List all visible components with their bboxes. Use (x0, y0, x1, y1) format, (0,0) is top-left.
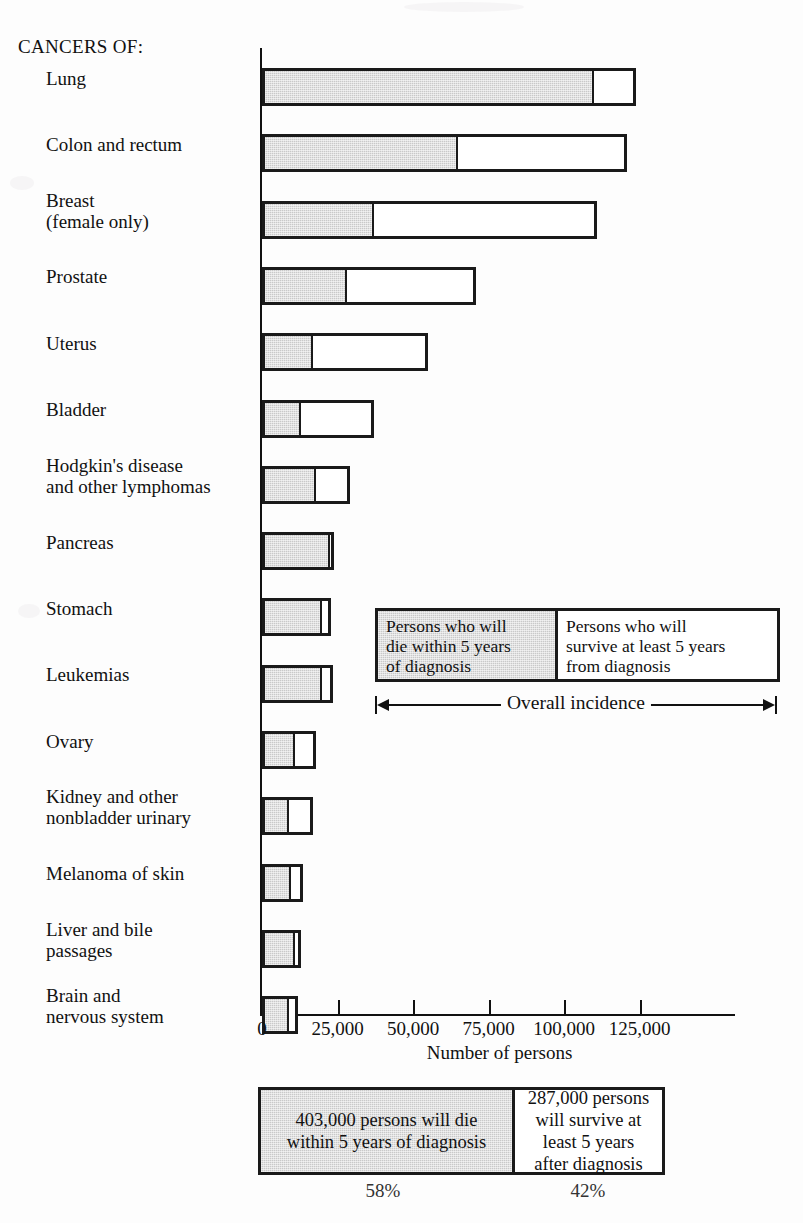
summary-die-percent: 58% (366, 1180, 401, 1202)
bar-row (262, 665, 333, 703)
x-axis-title: Number of persons (262, 1042, 737, 1064)
bar-segment-die (262, 201, 374, 239)
x-axis-line (260, 1014, 735, 1016)
bar-segment-die (262, 267, 347, 305)
category-label: Lung (46, 68, 86, 89)
x-axis-tick-label: 50,000 (387, 1018, 439, 1040)
category-label: Uterus (46, 333, 97, 354)
category-label: Bladder (46, 399, 106, 420)
x-axis-tick (489, 1000, 491, 1015)
legend: Persons who will die within 5 years of d… (375, 608, 780, 682)
category-label: Liver and bile passages (46, 919, 153, 961)
bar-row (262, 731, 316, 769)
bar-segment-die (262, 400, 301, 438)
summary-box: 403,000 persons will die within 5 years … (258, 1087, 665, 1175)
category-label: Hodgkin's disease and other lymphomas (46, 455, 211, 497)
bar-segment-die (262, 333, 313, 371)
incidence-right-cap (775, 696, 777, 714)
bar-row (262, 930, 301, 968)
x-axis-tick (413, 1000, 415, 1015)
bar-row (262, 267, 476, 305)
legend-item-die: Persons who will die within 5 years of d… (378, 611, 558, 679)
bar-segment-die (262, 466, 316, 504)
x-axis-tick (338, 1000, 340, 1015)
scan-artifact (10, 176, 34, 190)
bar-row (262, 996, 298, 1034)
bar-row (262, 333, 428, 371)
bar-segment-die (262, 598, 322, 636)
bar-segment-die (262, 731, 295, 769)
bar-segment-die (262, 665, 322, 703)
summary-die-cell: 403,000 persons will die within 5 years … (261, 1090, 515, 1172)
bar-segment-die (262, 134, 458, 172)
overall-incidence-annotation: Overall incidence (375, 694, 777, 716)
category-label: Kidney and other nonbladder urinary (46, 786, 191, 828)
bar-segment-die (262, 797, 289, 835)
x-axis-tick-label: 125,000 (609, 1018, 671, 1040)
category-label: Leukemias (46, 664, 129, 685)
x-axis-tick-label: 25,000 (311, 1018, 363, 1040)
x-axis-tick-label: 0 (257, 1018, 267, 1040)
group-label: CANCERS OF: (18, 36, 143, 58)
category-label: Colon and rectum (46, 134, 182, 155)
summary-survive-percent: 42% (571, 1180, 606, 1202)
bar-row (262, 532, 334, 570)
bar-row (262, 797, 313, 835)
arrow-right-icon (763, 699, 775, 711)
summary-survive-cell: 287,000 persons will survive at least 5 … (515, 1090, 662, 1172)
bar-segment-die (262, 68, 594, 106)
category-label: Prostate (46, 266, 107, 287)
bar-row (262, 68, 636, 106)
x-axis-tick (640, 1000, 642, 1015)
bar-row (262, 864, 303, 902)
legend-item-survive: Persons who will survive at least 5 year… (558, 611, 777, 679)
x-axis-tick-label: 100,000 (533, 1018, 595, 1040)
bar-row (262, 400, 374, 438)
category-label: Stomach (46, 598, 113, 619)
bar-row (262, 466, 350, 504)
x-axis-tick (564, 1000, 566, 1015)
category-label: Ovary (46, 731, 93, 752)
x-axis-tick-label: 75,000 (462, 1018, 514, 1040)
bar-segment-die (262, 930, 295, 968)
category-label: Brain and nervous system (46, 985, 164, 1027)
category-label: Pancreas (46, 532, 114, 553)
bar-segment-die (262, 864, 291, 902)
bar-segment-die (262, 532, 330, 570)
incidence-label: Overall incidence (501, 692, 651, 714)
bar-row (262, 201, 597, 239)
scan-artifact (404, 2, 524, 12)
cancer-incidence-survival-chart: CANCERS OF: LungColon and rectumBreast (… (0, 0, 803, 1223)
arrow-left-icon (377, 699, 389, 711)
category-label: Melanoma of skin (46, 863, 184, 884)
bar-row (262, 598, 331, 636)
category-label: Breast (female only) (46, 190, 149, 232)
scan-artifact (18, 604, 40, 618)
bar-row (262, 134, 627, 172)
